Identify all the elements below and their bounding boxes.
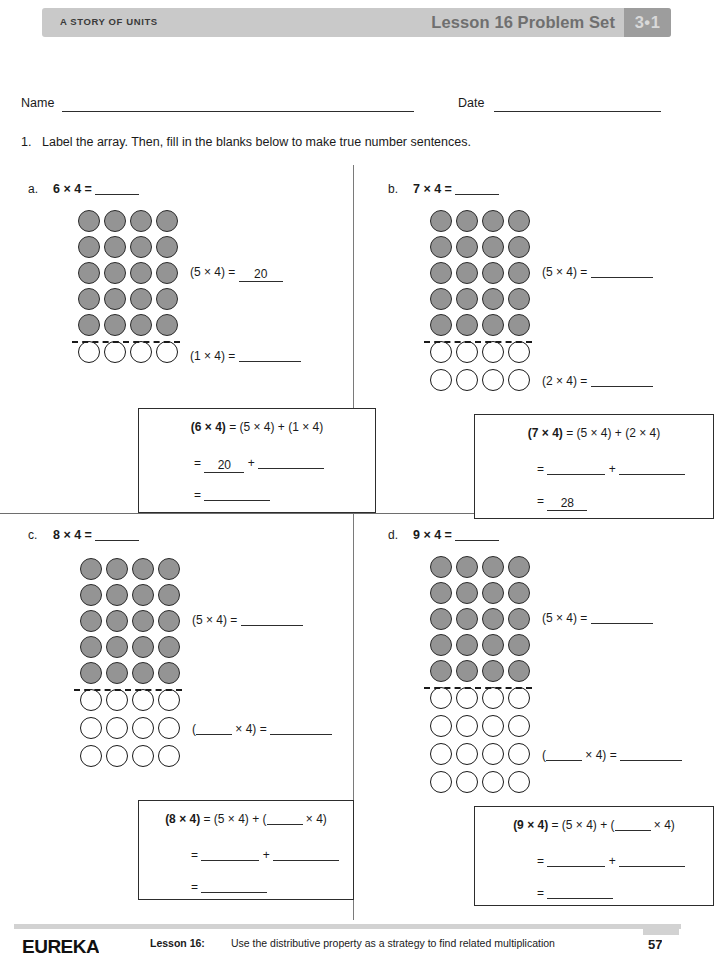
part-answer-blank[interactable] [95, 194, 139, 195]
box-sum-line: = 20 + [194, 456, 324, 473]
shaded-dot [106, 662, 128, 684]
dot-row-open [430, 740, 534, 768]
box-total-line: = [537, 886, 613, 900]
shaded-dot [508, 556, 530, 578]
answer-blank[interactable] [201, 860, 259, 861]
answer-blank[interactable] [201, 892, 267, 893]
shaded-dot [430, 210, 452, 232]
factor-blank[interactable] [196, 734, 232, 735]
box-equation-line: (8 × 4) = (5 × 4) + ( × 4) [139, 812, 353, 826]
shaded-dot [456, 314, 478, 336]
answer-blank[interactable] [619, 866, 685, 867]
shaded-dot [104, 314, 126, 336]
shaded-dot [78, 262, 100, 284]
open-dot [132, 689, 154, 711]
side-equation-answer-blank[interactable] [239, 361, 301, 362]
shaded-dot [132, 662, 154, 684]
shaded-dot [130, 210, 152, 232]
open-dot [80, 745, 102, 767]
box-equation-line: (9 × 4) = (5 × 4) + ( × 4) [475, 818, 713, 832]
array-split-dashed-line [72, 341, 180, 343]
dot-row-open [80, 742, 184, 770]
shaded-dot [158, 610, 180, 632]
filled-answer[interactable]: 28 [547, 496, 587, 511]
shaded-dot [156, 262, 178, 284]
open-dot [508, 341, 530, 363]
open-dot [430, 369, 452, 391]
side-equation: (1 × 4) = [190, 349, 301, 363]
box-sum-line: = + [537, 854, 685, 868]
open-dot [80, 717, 102, 739]
dot-row-shaded [80, 608, 184, 634]
open-dot [482, 369, 504, 391]
date-input-line[interactable] [494, 111, 661, 112]
shaded-dot [482, 288, 504, 310]
part-answer-blank[interactable] [455, 194, 499, 195]
part-letter: d. [388, 528, 398, 542]
shaded-dot [508, 634, 530, 656]
date-label: Date [458, 96, 484, 110]
box-product-expression: (8 × 4) [165, 812, 200, 826]
answer-blank[interactable] [204, 500, 270, 501]
shaded-dot [78, 210, 100, 232]
open-dot [78, 341, 100, 363]
side-equation-answer-blank[interactable] [620, 760, 682, 761]
name-input-line[interactable] [62, 111, 414, 112]
shaded-dot [430, 582, 452, 604]
dot-row-shaded [430, 312, 534, 338]
filled-answer[interactable]: 20 [204, 458, 244, 473]
page-number: 57 [648, 937, 662, 950]
shaded-dot [104, 262, 126, 284]
box-factor-blank[interactable] [267, 824, 303, 825]
answer-blank[interactable] [273, 860, 339, 861]
shaded-dot [132, 610, 154, 632]
open-dot [156, 341, 178, 363]
dot-row-shaded [430, 208, 534, 234]
answer-blank[interactable] [547, 866, 605, 867]
side-equation-answer-blank[interactable] [591, 386, 653, 387]
open-dot [106, 745, 128, 767]
shaded-dot [430, 236, 452, 258]
part-expression: 6 × 4 = [53, 182, 139, 196]
box-factor-blank[interactable] [615, 830, 651, 831]
dot-array [80, 556, 184, 770]
shaded-dot [456, 634, 478, 656]
side-equation-answer-blank[interactable] [591, 623, 653, 624]
answer-blank[interactable] [547, 474, 605, 475]
footer-rule [14, 924, 681, 929]
open-dot [508, 369, 530, 391]
side-equation-answer-filled[interactable]: 20 [239, 267, 283, 282]
shaded-dot [456, 582, 478, 604]
side-equation-answer-blank[interactable] [270, 734, 332, 735]
shaded-dot [106, 610, 128, 632]
shaded-dot [482, 608, 504, 630]
footer-lesson-description: Use the distributive property as a strat… [231, 937, 555, 949]
side-equation-answer-blank[interactable] [591, 277, 653, 278]
distributive-property-box: (7 × 4) = (5 × 4) + (2 × 4)= + = 28 [474, 414, 714, 519]
answer-blank[interactable] [258, 468, 324, 469]
part-answer-blank[interactable] [455, 540, 499, 541]
dot-row-shaded [78, 208, 182, 234]
shaded-dot [456, 556, 478, 578]
answer-blank[interactable] [547, 898, 613, 899]
open-dot [508, 715, 530, 737]
factor-blank[interactable] [546, 760, 582, 761]
open-dot [482, 771, 504, 793]
shaded-dot [158, 558, 180, 580]
part-answer-blank[interactable] [95, 540, 139, 541]
open-dot [106, 717, 128, 739]
box-sum-line: = + [191, 848, 339, 862]
open-dot [456, 341, 478, 363]
dot-row-shaded [430, 606, 534, 632]
lesson-title: Lesson 16 Problem Set [431, 13, 615, 32]
side-equation-answer-blank[interactable] [241, 625, 303, 626]
array-split-dashed-line [424, 341, 532, 343]
shaded-dot [156, 314, 178, 336]
shaded-dot [482, 314, 504, 336]
name-label: Name [21, 96, 54, 110]
answer-blank[interactable] [619, 474, 685, 475]
side-equation: (5 × 4) = [542, 265, 653, 279]
dot-row-shaded [430, 286, 534, 312]
shaded-dot [430, 556, 452, 578]
side-equation: (2 × 4) = [542, 374, 653, 388]
